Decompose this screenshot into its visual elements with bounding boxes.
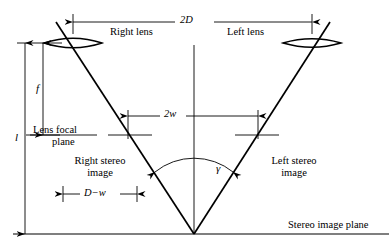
dimension-l-label: l [15, 131, 18, 143]
convergence-angle-label: γ [216, 162, 220, 174]
right-lens-label: Right lens [110, 26, 153, 38]
left-lens-label: Left lens [227, 26, 264, 38]
lens-focal-plane-label-line2: plane [52, 136, 75, 148]
right-stereo-image-label-line2: image [58, 167, 142, 179]
stereo-imaging-diagram: Right lens Left lens 2D 2w f l Lens foca… [0, 0, 391, 250]
left-ray [194, 22, 330, 234]
dimension-D-minus-w-label: D−w [82, 187, 108, 199]
dimension-2w-label: 2w [162, 108, 178, 120]
right-stereo-image-label-line1: Right stereo [58, 155, 142, 167]
dimension-f [17, 43, 62, 135]
stereo-image-plane-label: Stereo image plane [288, 219, 368, 231]
left-stereo-image-label-line1: Left stereo [252, 155, 336, 167]
dimension-2D-label: 2D [178, 14, 195, 26]
lens-focal-plane-label-line1: Lens focal [33, 124, 77, 136]
left-lens-glyph [283, 39, 341, 48]
left-stereo-image-label-line2: image [252, 167, 336, 179]
dimension-f-label: f [36, 82, 39, 94]
